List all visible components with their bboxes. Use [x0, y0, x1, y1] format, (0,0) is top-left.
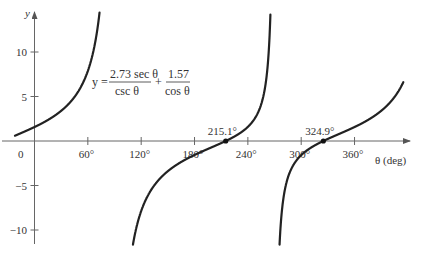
equation-term2-denominator: cos θ: [165, 84, 190, 98]
y-tick-label: 10: [16, 46, 28, 58]
x-tick-label: 180°: [183, 148, 204, 160]
curve-branch-1: [15, 13, 100, 136]
equation-term2-numerator: 1.57: [168, 67, 189, 81]
equation-plus: +: [155, 75, 162, 89]
root-label: 324.9°: [305, 125, 334, 137]
x-axis-label: θ (deg): [375, 154, 407, 167]
equation-term1-numerator: 2.73 sec θ: [110, 67, 158, 81]
root-label: 215.1°: [208, 125, 237, 137]
x-tick-label: 360°: [343, 148, 364, 160]
y-tick-label: −10: [10, 224, 28, 236]
root-point: [321, 138, 326, 143]
y-axis-label: y: [24, 7, 30, 19]
root-point: [223, 138, 228, 143]
equation-lhs: y =: [92, 75, 108, 89]
x-tick-label: 60°: [79, 148, 94, 160]
y-tick-label: −5: [15, 180, 27, 192]
y-tick-label: 5: [22, 91, 28, 103]
chart: 060°120°180°240°300°360° 105−5−10 y θ (d…: [0, 0, 423, 257]
x-tick-label: 120°: [129, 148, 150, 160]
x-tick-label: 0: [18, 148, 24, 160]
equation: y = 2.73 sec θ csc θ + 1.57 cos θ: [92, 67, 190, 98]
x-tick-label: 240°: [236, 148, 257, 160]
curve-branch-2: [133, 15, 270, 245]
equation-term1-denominator: csc θ: [115, 84, 139, 98]
